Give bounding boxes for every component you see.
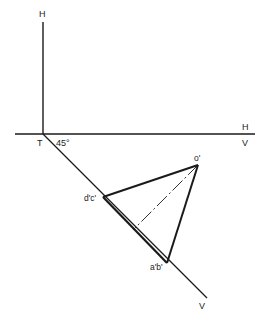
label-bottom-v: V (199, 301, 205, 311)
projection-diagram: H H V T 45° o' d'c' a'b' V (0, 0, 271, 322)
edge-dc-to-o (103, 165, 198, 197)
label-apex-o: o' (194, 153, 201, 163)
label-vertex-dc: d'c' (84, 193, 97, 203)
label-xy-h: H (242, 122, 249, 132)
label-origin-t: T (37, 138, 43, 148)
label-top-h: H (39, 9, 46, 19)
label-angle: 45° (56, 138, 70, 148)
diagram-canvas: H H V T 45° o' d'c' a'b' V (0, 0, 271, 322)
edge-o-to-ab (167, 165, 198, 263)
label-vertex-ab: a'b' (150, 262, 163, 272)
label-xy-v: V (242, 138, 248, 148)
edge-dc-to-ab (103, 197, 167, 263)
